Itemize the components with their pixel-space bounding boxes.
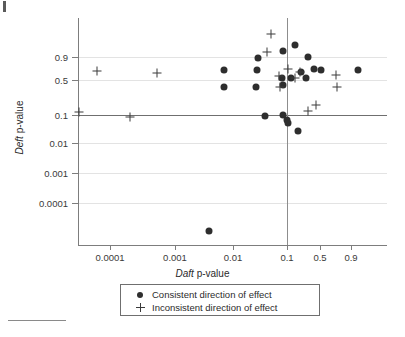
data-point-inconsistent <box>75 108 84 117</box>
legend-item-consistent: Consistent direction of effect <box>121 288 319 301</box>
data-point-consistent <box>221 67 228 74</box>
y-axis-tick <box>72 57 78 58</box>
x-axis-tick-label: 0.0001 <box>95 252 124 263</box>
x-axis-tick-label: 0.1 <box>280 252 293 263</box>
x-axis-tick <box>233 245 234 250</box>
legend-item-inconsistent: Inconsistent direction of effect <box>121 301 319 314</box>
gridline-horizontal <box>78 57 387 58</box>
reference-line-vertical <box>287 18 288 246</box>
y-axis-tick <box>72 203 78 204</box>
data-point-consistent <box>255 55 262 62</box>
data-point-consistent <box>221 84 228 91</box>
x-axis-tick-label: 0.9 <box>344 252 357 263</box>
y-axis-tick <box>72 80 78 81</box>
data-point-inconsistent <box>126 113 135 122</box>
data-point-inconsistent <box>312 101 321 110</box>
x-axis-tick-label: 0.5 <box>313 252 326 263</box>
data-point-inconsistent <box>291 74 300 83</box>
gridline-horizontal <box>78 143 387 144</box>
data-point-inconsistent <box>332 71 341 80</box>
y-axis-tick-label: 0.01 <box>50 138 69 149</box>
y-axis-title-italic: Deft <box>14 136 25 154</box>
scatter-plot-figure: 0.90.50.10.010.0010.0001 0.00010.0010.01… <box>0 0 405 337</box>
x-axis-tick-label: 0.01 <box>224 252 243 263</box>
data-point-inconsistent <box>93 67 102 76</box>
x-axis-title: Daft p-value <box>0 268 405 279</box>
data-point-consistent <box>253 84 260 91</box>
gridline-horizontal <box>78 203 387 204</box>
x-axis-tick <box>351 245 352 250</box>
data-point-inconsistent <box>153 69 162 78</box>
x-axis-title-rest: p-value <box>194 268 230 279</box>
y-axis-tick-label: 0.9 <box>55 52 68 63</box>
y-axis-title: Deft p-value <box>14 73 25 183</box>
x-axis-tick <box>175 245 176 250</box>
data-point-consistent <box>262 113 269 120</box>
y-axis-tick-label: 0.001 <box>44 168 68 179</box>
y-axis-tick <box>72 143 78 144</box>
data-point-inconsistent <box>333 83 342 92</box>
y-axis-tick <box>72 173 78 174</box>
data-point-consistent <box>311 66 318 73</box>
data-point-inconsistent <box>275 72 284 81</box>
data-point-consistent <box>295 128 302 135</box>
chart-legend: Consistent direction of effect Inconsist… <box>120 284 320 316</box>
gridline-horizontal <box>78 173 387 174</box>
data-point-inconsistent <box>263 48 272 57</box>
data-point-consistent <box>292 42 299 49</box>
y-axis-line <box>78 18 79 246</box>
y-axis-title-rest: p-value <box>14 101 25 137</box>
data-point-consistent <box>206 228 213 235</box>
data-point-consistent <box>285 120 292 127</box>
legend-label-consistent: Consistent direction of effect <box>152 289 272 300</box>
data-point-consistent <box>305 54 312 61</box>
y-axis-tick-label: 0.0001 <box>39 198 68 209</box>
x-axis-tick <box>320 245 321 250</box>
y-axis-tick-label: 0.5 <box>55 75 68 86</box>
data-point-inconsistent <box>267 30 276 39</box>
data-point-inconsistent <box>284 65 293 74</box>
data-point-consistent <box>318 67 325 74</box>
data-point-inconsistent <box>276 83 285 92</box>
x-axis-tick <box>287 245 288 250</box>
filled-circle-icon <box>133 290 147 300</box>
x-axis-tick-label: 0.001 <box>163 252 187 263</box>
data-point-inconsistent <box>304 107 313 116</box>
data-point-consistent <box>254 67 261 74</box>
y-axis-tick-label: 0.1 <box>55 110 68 121</box>
legend-label-inconsistent: Inconsistent direction of effect <box>152 302 278 313</box>
plus-marker-icon <box>133 303 147 313</box>
data-point-consistent <box>280 48 287 55</box>
reference-line-horizontal <box>78 115 387 116</box>
gridline-horizontal <box>78 80 387 81</box>
data-point-consistent <box>355 67 362 74</box>
x-axis-tick <box>110 245 111 250</box>
x-axis-title-italic: Daft <box>176 268 194 279</box>
